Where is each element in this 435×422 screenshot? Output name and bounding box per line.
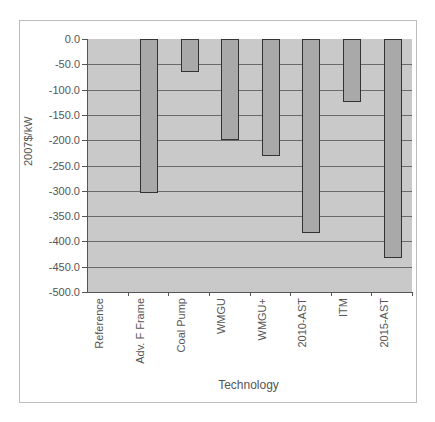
bar-adv-f-frame <box>140 39 158 193</box>
x-tick-label: 2010-AST <box>296 298 308 348</box>
y-tick-label: -50.0 <box>55 58 80 70</box>
y-tick-label: -450.0 <box>49 261 80 273</box>
x-axis-title: Technology <box>0 378 435 392</box>
bar-itm <box>343 39 361 102</box>
x-tick-label: Adv. F Frame <box>134 298 146 364</box>
bar-coal-pump <box>181 39 199 72</box>
y-tick-label: -400.0 <box>49 235 80 247</box>
gridline <box>88 241 412 242</box>
y-tick-label: -200.0 <box>49 134 80 146</box>
y-tick-label: -300.0 <box>49 185 80 197</box>
gridline <box>88 90 412 91</box>
x-tick-mark <box>250 292 251 296</box>
x-tick-mark <box>209 292 210 296</box>
x-tick-mark <box>128 292 129 296</box>
bar-2015-ast <box>384 39 402 258</box>
gridline <box>88 166 412 167</box>
y-tick-label: -500.0 <box>49 286 80 298</box>
x-tick-label: 2015-AST <box>377 298 389 348</box>
x-tick-label: Reference <box>93 298 105 349</box>
x-tick-label: ITM <box>337 298 349 317</box>
x-tick-label: Coal Pump <box>175 298 187 352</box>
gridline <box>88 267 412 268</box>
x-tick-mark <box>168 292 169 296</box>
y-axis-title: 2007$/kW <box>22 116 34 166</box>
gridline <box>88 140 412 141</box>
bar-wmgu <box>221 39 239 140</box>
gridline <box>88 64 412 65</box>
gridline <box>88 191 412 192</box>
y-tick-label: -150.0 <box>49 109 80 121</box>
gridline <box>88 216 412 217</box>
x-tick-label: WMGU+ <box>256 298 268 340</box>
y-tick-label: -350.0 <box>49 210 80 222</box>
gridline <box>88 115 412 116</box>
plot-area <box>87 39 412 293</box>
y-tick-label: -100.0 <box>49 84 80 96</box>
x-tick-mark <box>412 292 413 296</box>
bar-2010-ast <box>302 39 320 233</box>
y-tick-label: -250.0 <box>49 160 80 172</box>
y-tick-label: 0.0 <box>65 33 80 45</box>
x-tick-label: WMGU <box>215 298 227 334</box>
bar-wmgu- <box>262 39 280 156</box>
x-tick-mark <box>371 292 372 296</box>
x-tick-mark <box>331 292 332 296</box>
x-tick-mark <box>290 292 291 296</box>
